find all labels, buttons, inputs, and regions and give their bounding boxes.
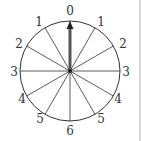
label-6: 6 — [66, 124, 74, 138]
label-5-right: 5 — [97, 112, 105, 126]
label-3-right: 3 — [122, 65, 130, 79]
pointer-arrow[interactable] — [67, 21, 74, 73]
label-0: 0 — [66, 4, 74, 18]
label-2-left: 2 — [15, 37, 23, 51]
label-5-left: 5 — [36, 112, 44, 126]
spinner-dial: 0 1 2 3 4 5 6 5 4 3 2 1 — [0, 0, 141, 141]
label-4-right: 4 — [114, 92, 122, 106]
label-1-right: 1 — [97, 15, 105, 29]
label-2-right: 2 — [119, 37, 127, 51]
label-1-left: 1 — [35, 15, 43, 29]
label-4-left: 4 — [18, 92, 26, 106]
label-3-left: 3 — [10, 65, 18, 79]
